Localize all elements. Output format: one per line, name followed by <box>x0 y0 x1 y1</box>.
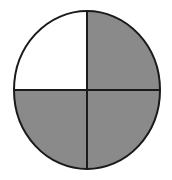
figure-root <box>0 0 172 180</box>
fraction-circle-diagram <box>0 0 172 180</box>
